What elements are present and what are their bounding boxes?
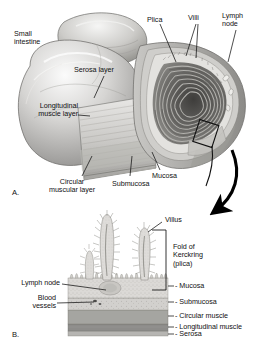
villus-shape-1 [93,210,120,280]
anatomy-figure: Small intestine Serosa layer Longitudina… [0,0,272,356]
label-plica: Plica [147,16,162,24]
label-mucosa-b: - Mucosa [175,282,204,290]
label-serosa-layer: Serosa layer [74,66,114,74]
label-villi: Villi [188,14,199,22]
label-longitudinal-muscle-layer: Longitudinal muscle layer [4,102,78,119]
label-villus: Villus [165,216,182,224]
label-submucosa-a: Submucosa [112,180,150,188]
label-mucosa-a: Mucosa [152,172,177,180]
label-circular-muscle: - Circular muscle [175,312,228,320]
villus-shape-2 [132,222,156,280]
label-small-intestine: Small intestine [14,30,40,47]
label-submucosa-b: - Submucosa [175,298,217,306]
magnification-arrow [214,150,237,212]
mucosal-fringe [70,273,167,279]
panel-a-marker: A. [12,188,19,197]
label-lymph-node-b: Lymph node [2,279,60,287]
panel-b-artwork [57,210,174,336]
label-circular-muscular-layer: Circular muscular layer [36,178,108,195]
panel-b-marker: B. [12,330,19,339]
panel-a-artwork [18,13,245,186]
label-blood-vessels: Blood vessels [6,294,56,311]
label-fold-of-kerckring: Fold of Kerckring (plica) [173,243,203,268]
label-serosa-b: - Serosa [175,330,202,338]
label-lymph-node-a: Lymph node [222,12,243,29]
